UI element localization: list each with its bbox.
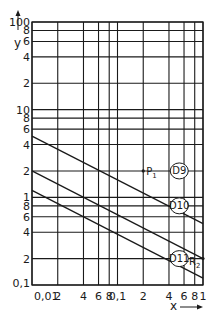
- y-tick-label: 100: [9, 16, 30, 29]
- x-tick-label: 8: [191, 290, 198, 303]
- y-tick-label: 2: [23, 165, 30, 178]
- x-tick-label: 6: [181, 290, 188, 303]
- x-axis-title: x: [170, 299, 177, 313]
- y-tick-label: 2: [23, 253, 30, 266]
- y-axis-title: y: [14, 36, 21, 50]
- series-label-d10: D10: [169, 200, 189, 211]
- x-tick-label: 2: [140, 290, 147, 303]
- x-tick-label: 4: [80, 290, 87, 303]
- y-tick-label: 10: [16, 104, 30, 117]
- series-label-d11: D11: [169, 253, 189, 264]
- x-tick-label: 0,1: [109, 290, 127, 303]
- series-label-d9: D9: [172, 165, 186, 176]
- y-tick-label: 0,1: [13, 277, 31, 290]
- point-marker: [201, 257, 204, 260]
- x-tick-label: 6: [95, 290, 102, 303]
- point-marker: [142, 169, 145, 172]
- y-tick-label: 4: [23, 139, 30, 152]
- y-tick-label: 2: [23, 77, 30, 90]
- y-tick-label: 4: [23, 51, 30, 64]
- y-tick-label: 4: [23, 226, 30, 239]
- x-tick-label: 2: [54, 290, 61, 303]
- log-log-chart: 0,0124680,1246810,1246812468102468100 D9…: [0, 0, 220, 329]
- point-label-p1: P1: [146, 166, 157, 180]
- x-tick-label: 1: [200, 290, 207, 303]
- y-tick-label: 1: [23, 191, 30, 204]
